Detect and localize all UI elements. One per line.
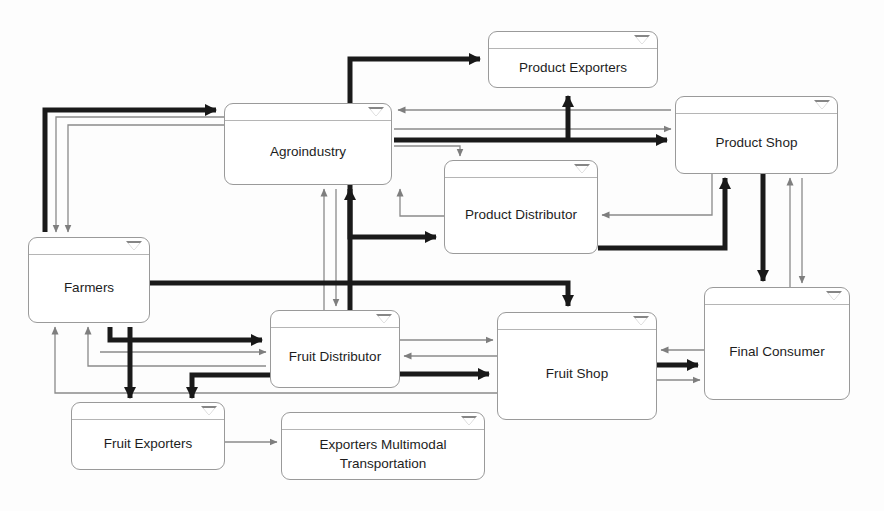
edge-product-shop-to-product-distributor [602, 174, 712, 215]
node-label: Fruit Distributor [275, 328, 395, 387]
edge-agroindustry-to-product-exporters-thick [350, 59, 480, 103]
collapse-triangle-icon[interactable] [201, 406, 217, 415]
collapse-triangle-icon[interactable] [376, 314, 392, 323]
node-product-distributor[interactable]: Product Distributor [444, 160, 598, 254]
node-label: Fruit Shop [502, 330, 652, 419]
node-product-exporters[interactable]: Product Exporters [488, 31, 658, 88]
node-product-shop[interactable]: Product Shop [675, 96, 838, 174]
edge-farmers-to-fruit-shop-thick [150, 283, 568, 306]
node-label: Fruit Exporters [76, 420, 220, 469]
node-exporters-multimodal[interactable]: Exporters Multimodal Transportation [281, 412, 485, 480]
edge-product-distributor-to-product-shop-thick [598, 178, 725, 248]
collapse-triangle-icon[interactable] [574, 164, 590, 173]
node-label: Exporters Multimodal Transportation [286, 430, 480, 479]
node-farmers[interactable]: Farmers [28, 237, 150, 323]
edge-farmers-to-fruit-distributor-thick [110, 327, 262, 340]
node-label: Agroindustry [229, 121, 387, 184]
diagram-canvas: Agroindustry Product Exporters Product S… [0, 0, 884, 511]
node-label: Product Shop [680, 114, 833, 173]
node-label: Final Consumer [709, 305, 845, 399]
edge-farmers-to-agroindustry-thick [45, 110, 216, 232]
node-fruit-distributor[interactable]: Fruit Distributor [270, 310, 400, 388]
node-title-bar [225, 104, 391, 121]
edge-agroindustry-to-farmers-a [56, 117, 224, 232]
edge-agroindustry-to-product-distributor-thin [394, 146, 460, 156]
node-agroindustry[interactable]: Agroindustry [224, 103, 392, 185]
node-final-consumer[interactable]: Final Consumer [704, 287, 850, 400]
node-title-bar [489, 32, 657, 49]
node-fruit-shop[interactable]: Fruit Shop [497, 312, 657, 420]
node-label: Product Distributor [449, 178, 593, 253]
node-title-bar [282, 413, 484, 430]
edge-fruit-distributor-to-farmers-thin [88, 327, 266, 366]
collapse-triangle-icon[interactable] [634, 35, 650, 44]
node-label: Product Exporters [493, 49, 653, 87]
collapse-triangle-icon[interactable] [461, 416, 477, 425]
collapse-triangle-icon[interactable] [126, 241, 142, 250]
collapse-triangle-icon[interactable] [633, 316, 649, 325]
collapse-triangle-icon[interactable] [368, 107, 384, 116]
edge-agroindustry-to-farmers-b [68, 125, 224, 232]
collapse-triangle-icon[interactable] [814, 100, 830, 109]
node-fruit-exporters[interactable]: Fruit Exporters [71, 402, 225, 470]
node-title-bar [676, 97, 837, 114]
edge-agroindustry-to-product-distributor-thick [350, 185, 436, 237]
edge-product-distributor-to-agroindustry [400, 189, 444, 216]
node-label: Farmers [33, 255, 145, 322]
collapse-triangle-icon[interactable] [826, 291, 842, 300]
